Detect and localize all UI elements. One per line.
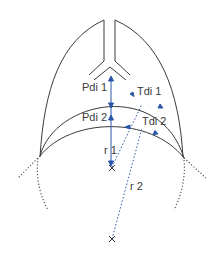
label-pdi1: Pdi 1 bbox=[82, 81, 107, 93]
diaphragm-diagram: Pdi 1 Pdi 2 Tdi 1 Tdi 2 r 1 r 2 bbox=[0, 0, 216, 261]
label-r2: r 2 bbox=[130, 180, 143, 192]
center-r2-icon bbox=[109, 236, 115, 242]
label-tdi2: Tdi 2 bbox=[142, 115, 166, 127]
radius-lines bbox=[112, 104, 142, 239]
label-tdi1: Tdi 1 bbox=[137, 85, 161, 97]
center-markers bbox=[109, 165, 115, 242]
label-pdi2: Pdi 2 bbox=[82, 111, 107, 123]
label-r1: r 1 bbox=[104, 144, 117, 156]
